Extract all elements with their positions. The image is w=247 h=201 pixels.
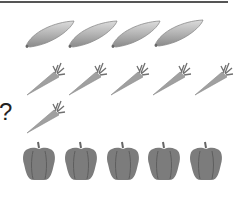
- carrot-icon: [194, 62, 234, 96]
- carrot-icon: [26, 100, 66, 134]
- top-rule-line: [0, 1, 228, 3]
- question-mark: ?: [0, 100, 12, 124]
- carrot-icon: [26, 62, 66, 96]
- zucchini-icon: [153, 17, 205, 49]
- bell-pepper-icon: [22, 140, 56, 182]
- carrot-icon: [110, 62, 150, 96]
- carrot-icon: [68, 62, 108, 96]
- bell-pepper-icon: [147, 140, 181, 182]
- bell-pepper-icon: [189, 140, 223, 182]
- bell-pepper-icon: [106, 140, 140, 182]
- bell-pepper-icon: [64, 140, 98, 182]
- carrot-icon: [152, 62, 192, 96]
